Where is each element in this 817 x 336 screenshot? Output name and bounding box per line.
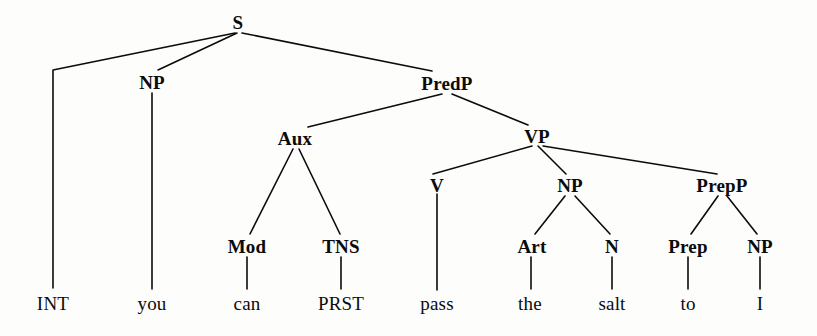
- nonterminal-node-np_obj: NP: [557, 176, 583, 195]
- nonterminal-node-predp: PredP: [421, 74, 472, 93]
- tree-edge-s-to-np_subj: [158, 33, 237, 70]
- terminal-node-w_salt: salt: [598, 294, 625, 313]
- terminal-node-w_the: the: [518, 294, 542, 313]
- nonterminal-node-tns: TNS: [322, 237, 360, 256]
- terminal-node-w_can: can: [234, 294, 261, 313]
- tree-edge-aux-to-tns: [299, 149, 340, 234]
- nonterminal-node-v: V: [430, 176, 444, 195]
- terminal-node-w_int: INT: [37, 294, 69, 313]
- tree-edge-aux-to-mod: [250, 149, 293, 234]
- nonterminal-node-prepp: PrepP: [696, 176, 747, 195]
- nonterminal-node-np_subj: NP: [139, 73, 165, 92]
- terminal-node-w_prst: PRST: [318, 294, 364, 313]
- tree-edge-vp-to-v: [433, 146, 532, 174]
- nonterminal-node-np_pobj: NP: [747, 237, 773, 256]
- nonterminal-node-n: N: [605, 237, 619, 256]
- tree-edge-vp-to-prepp: [543, 146, 717, 174]
- syntax-tree-diagram: SNPPredPAuxVPVNPPrepPModTNSArtNPrepNPINT…: [0, 0, 817, 336]
- tree-edge-predp-to-vp: [452, 94, 528, 125]
- tree-edge-np_obj-to-n: [575, 196, 610, 234]
- terminal-node-w_to: to: [680, 294, 695, 313]
- nonterminal-node-prep: Prep: [668, 237, 708, 256]
- terminal-node-w_you: you: [137, 294, 166, 313]
- nonterminal-node-aux: Aux: [278, 129, 312, 148]
- nonterminal-node-vp: VP: [524, 127, 550, 146]
- nonterminal-node-mod: Mod: [228, 237, 267, 256]
- nonterminal-node-s: S: [233, 13, 244, 32]
- tree-edge-np_obj-to-art: [535, 196, 565, 234]
- tree-edge-prepp-to-np_pobj: [727, 196, 757, 234]
- tree-edge-s-to-predp: [242, 33, 432, 71]
- tree-edge-predp-to-aux: [308, 94, 442, 127]
- tree-branch-lines: [0, 0, 817, 336]
- terminal-node-w_pass: pass: [420, 294, 454, 313]
- terminal-node-w_i: I: [757, 294, 764, 313]
- tree-edge-prepp-to-prep: [691, 196, 718, 234]
- nonterminal-node-art: Art: [517, 237, 546, 256]
- tree-edge-vp-to-np_obj: [538, 146, 566, 174]
